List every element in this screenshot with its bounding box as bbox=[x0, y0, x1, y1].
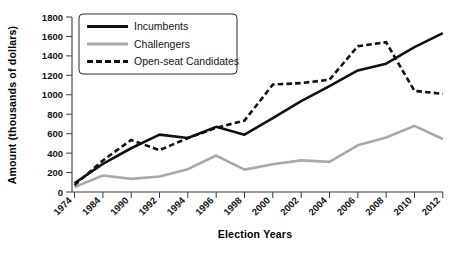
x-tick-1996: 1996 bbox=[193, 195, 216, 218]
series-line-challengers bbox=[75, 126, 443, 187]
x-tick-1998: 1998 bbox=[221, 195, 244, 218]
x-tick-2012: 2012 bbox=[419, 195, 442, 218]
y-axis-title: Amount (thousands of dollars) bbox=[6, 26, 18, 185]
y-tick-1200: 1200 bbox=[42, 70, 63, 81]
y-tick-600: 600 bbox=[47, 128, 63, 139]
x-tick-2008: 2008 bbox=[363, 195, 386, 218]
x-tick-2010: 2010 bbox=[391, 195, 414, 218]
legend-label-incumbents: Incumbents bbox=[134, 20, 188, 32]
x-tick-2004: 2004 bbox=[306, 194, 329, 217]
x-tick-2006: 2006 bbox=[334, 195, 357, 218]
y-tick-1600: 1600 bbox=[42, 31, 63, 42]
y-tick-1800: 1800 bbox=[42, 12, 63, 23]
page-scan-artifact: · · · bbox=[8, 240, 29, 248]
x-axis-ticks bbox=[75, 192, 443, 198]
chart-legend: Incumbents Challengers Open-seat Candida… bbox=[79, 14, 239, 74]
line-chart-figure: 1800 1600 1400 1200 1000 800 600 400 200… bbox=[0, 0, 456, 254]
y-tick-400: 400 bbox=[47, 148, 63, 159]
y-tick-0: 0 bbox=[58, 187, 63, 198]
x-axis-tick-labels: 1974 1984 1990 1992 1994 1996 1998 2000 … bbox=[51, 194, 442, 217]
legend-label-open-seat-candidates: Open-seat Candidates bbox=[134, 55, 239, 67]
y-tick-800: 800 bbox=[47, 109, 63, 120]
x-tick-1994: 1994 bbox=[164, 194, 187, 217]
x-tick-2002: 2002 bbox=[278, 195, 301, 218]
y-axis-ticks bbox=[66, 17, 72, 192]
x-tick-1990: 1990 bbox=[108, 195, 131, 218]
y-tick-1000: 1000 bbox=[42, 89, 63, 100]
legend-label-challengers: Challengers bbox=[134, 38, 190, 50]
x-axis-title: Election Years bbox=[218, 228, 292, 240]
y-tick-1400: 1400 bbox=[42, 50, 63, 61]
x-tick-1974: 1974 bbox=[51, 194, 74, 217]
x-tick-1984: 1984 bbox=[80, 194, 103, 217]
x-tick-2000: 2000 bbox=[249, 195, 272, 218]
x-tick-1992: 1992 bbox=[136, 195, 159, 218]
chart-canvas: 1800 1600 1400 1200 1000 800 600 400 200… bbox=[0, 0, 456, 254]
y-tick-200: 200 bbox=[47, 167, 63, 178]
y-axis-tick-labels: 1800 1600 1400 1200 1000 800 600 400 200… bbox=[42, 12, 63, 198]
